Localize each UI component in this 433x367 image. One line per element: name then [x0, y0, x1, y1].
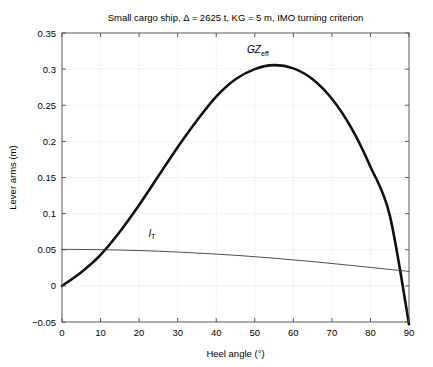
y-tick-label: 0.35: [38, 28, 57, 39]
y-tick-label: 0.15: [38, 172, 57, 183]
figure-container: 0102030405060708090 −0.0500.050.10.150.2…: [0, 0, 433, 367]
y-tick-label: −0.05: [32, 317, 56, 328]
y-axis-label: Lever arms (m): [7, 145, 18, 209]
y-tick-label: 0.2: [43, 136, 56, 147]
x-tick-label: 80: [365, 327, 376, 338]
x-tick-label: 30: [172, 327, 183, 338]
y-tick-label: 0.25: [38, 100, 57, 111]
x-tick-label: 70: [327, 327, 338, 338]
x-tick-label: 90: [404, 327, 415, 338]
x-tick-labels: 0102030405060708090: [59, 327, 414, 338]
x-tick-label: 20: [134, 327, 145, 338]
y-tick-label: 0.1: [43, 208, 56, 219]
chart-title: Small cargo ship, Δ = 2625 t, KG = 5 m, …: [108, 12, 364, 23]
y-tick-label: 0.05: [38, 244, 57, 255]
x-tick-label: 60: [288, 327, 299, 338]
x-tick-label: 0: [59, 327, 64, 338]
x-tick-label: 50: [249, 327, 260, 338]
y-tick-label: 0.3: [43, 64, 56, 75]
x-tick-label: 10: [95, 327, 106, 338]
x-tick-label: 40: [211, 327, 222, 338]
chart-canvas: 0102030405060708090 −0.0500.050.10.150.2…: [0, 0, 433, 367]
x-axis-label: Heel angle (°): [206, 348, 264, 359]
y-tick-labels: −0.0500.050.10.150.20.250.30.35: [32, 28, 56, 328]
y-tick-label: 0: [51, 280, 56, 291]
